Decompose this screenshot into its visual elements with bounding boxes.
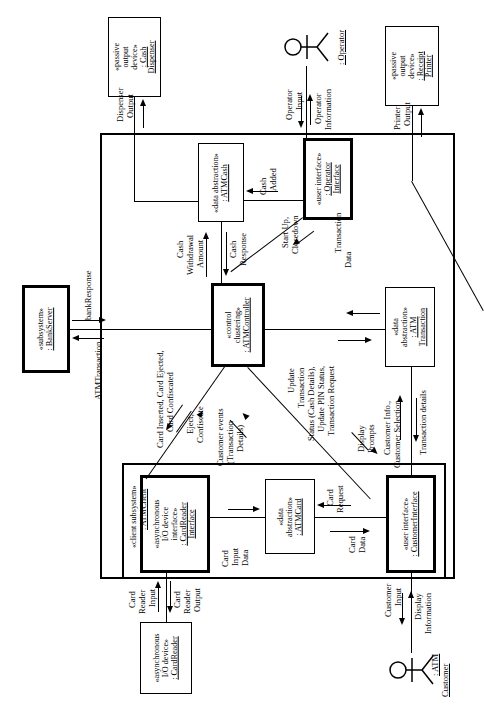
arrow-transaction-data-shaft	[352, 313, 380, 314]
label-display-information-1: Display	[414, 593, 423, 620]
object-atm-card: «data abstraction» : ATMCard	[265, 479, 315, 554]
arrow-card-reader-output-shaft	[170, 581, 171, 607]
arrow-card-reader-input-head	[155, 581, 161, 588]
label-eject-confiscate-2: Confiscate	[196, 406, 205, 443]
label-card-reader-input-2: Reader	[138, 590, 147, 614]
arrow-card-request-shaft	[323, 505, 351, 506]
atm-card-name: : ATMCard	[294, 496, 303, 536]
arrow-card-input-data-head	[253, 506, 260, 512]
line-cardreader-to-interface	[166, 573, 167, 622]
actor-atm-customer	[388, 650, 434, 690]
label-transaction-data-1: Transaction	[334, 213, 343, 253]
arrow-cash-response-shaft	[226, 232, 227, 270]
label-cash-withdrawal-1: Cash	[176, 241, 185, 258]
label-update-transaction-5: Transaction Request	[327, 366, 336, 436]
label-startup-2: Closedown	[291, 215, 300, 254]
arrow-operator-input-shaft	[301, 96, 302, 122]
arrow-card-data-head	[363, 528, 370, 534]
label-transaction-data-2: Data	[344, 252, 353, 268]
label-dispenser-output: Dispenser	[116, 88, 125, 122]
label-cash-withdrawal-2: Withdrawal	[186, 235, 195, 275]
label-card-reader-input-3: Input	[148, 589, 157, 607]
label-customer-events-1: Customer events	[216, 408, 225, 466]
label-card-request-1: Card	[326, 489, 335, 506]
label-operator-input-1: Operator	[285, 89, 294, 120]
label-card-input-data-3: Data	[241, 550, 250, 566]
line-atmcash-to-controller-v	[221, 222, 222, 283]
label-update-transaction-4: Update PIN Status,	[317, 366, 326, 432]
line-cardreaderinterface-to-atmcard	[210, 517, 265, 518]
cash-dispenser-stereotype-3: device»	[130, 41, 139, 74]
label-cash-response-1: Cash	[229, 241, 238, 258]
operator-interface-name-2: Interface	[332, 153, 341, 206]
arrow-cash-withdrawal-shaft	[206, 237, 207, 277]
label-card-data-2: Data	[358, 537, 367, 553]
arrow-display-information-head	[408, 591, 414, 598]
label-operator-information-2: Information	[324, 89, 333, 130]
label-card-inserted-1: Card Inserted, Card Ejected,	[156, 350, 165, 448]
label-printer-output-2: Output	[403, 102, 412, 126]
atm-controller-name: : ATMController	[242, 298, 251, 353]
line-printer-down	[412, 106, 413, 181]
label-card-reader-output-3: Output	[193, 588, 202, 612]
arrow-card-reader-output-head	[167, 606, 173, 613]
atm-transaction-name-2: Transaction	[419, 307, 428, 347]
label-card-request-2: Request	[336, 485, 345, 513]
arrow-customer-input-shaft	[402, 593, 403, 619]
arrow-customer-info-shaft	[400, 400, 401, 440]
label-bank-response: bankResponse	[84, 270, 93, 320]
line-atmcard-to-customerinterface	[315, 517, 386, 518]
arrow-atm-transaction-shaft	[78, 338, 104, 339]
object-atm-cash: «data abstraction» : ATMCash	[198, 143, 244, 222]
actor-atm-customer-label-1: : ATM	[431, 654, 440, 676]
arrow-cash-added-head	[246, 188, 253, 194]
label-customer-input-1: Customer	[384, 584, 393, 617]
object-operator-interface: «user interface» : Operator Interface	[303, 138, 353, 220]
arrow-operator-information-head	[307, 94, 313, 101]
arrow-cash-response-head	[223, 269, 229, 276]
label-cash-withdrawal-3: Amount	[196, 240, 205, 268]
label-printer-output-1: Printer	[393, 107, 402, 130]
object-receipt-printer: «passive output device» : Receipt Printe…	[385, 26, 439, 106]
arrow-card-input-data-shaft	[228, 509, 254, 510]
actor-operator	[283, 27, 329, 67]
label-eject-confiscate-1: Eject,	[186, 414, 195, 434]
label-cash-added-2: Added	[269, 168, 278, 191]
label-card-input-data-1: Card	[221, 550, 230, 567]
arrow-customer-info-head	[397, 395, 403, 402]
label-card-data-1: Card	[348, 536, 357, 553]
label-card-input-data-2: Input	[231, 548, 240, 566]
label-dispenser-output-2: Output	[126, 94, 135, 118]
card-reader-interface-name-2: Interface	[188, 499, 197, 548]
arrow-update-transaction-shaft	[338, 340, 366, 341]
label-startup-1: Start Up,	[281, 217, 290, 248]
arrow-printer-output-head	[418, 108, 424, 115]
label-card-reader-output-1: Card	[173, 591, 182, 608]
arrow-card-data-shaft	[330, 531, 364, 532]
label-cash-added-1: Cash	[259, 178, 268, 195]
label-card-reader-input-1: Card	[128, 591, 137, 608]
arrow-bank-response-shaft	[72, 320, 100, 321]
label-update-transaction-1: Update	[287, 368, 296, 393]
arrow-card-request-head	[317, 502, 324, 508]
label-card-reader-output-2: Reader	[183, 590, 192, 614]
object-customer-interface: «user interface» : CustomerInterface	[386, 475, 436, 573]
label-customer-info-1: Customer Info.,	[383, 401, 392, 455]
cash-dispenser-stereotype-2: output	[121, 41, 130, 74]
arrow-operator-information-shaft	[310, 99, 311, 125]
atm-client-name: : ATMClient	[140, 489, 149, 530]
line-bankserver-to-boundary	[70, 329, 104, 330]
actor-operator-label: : Operator	[337, 30, 346, 65]
arrow-card-reader-input-shaft	[158, 586, 159, 612]
atm-cash-name: : ATMCash	[221, 153, 230, 213]
line-atmtransaction-to-customerinterface	[411, 367, 412, 475]
label-atm-transaction-msg: ATMTransaction	[94, 342, 103, 400]
customer-interface-name: : CustomerInterface	[411, 491, 420, 556]
arrow-transaction-details-shaft	[416, 398, 417, 436]
label-customer-events-2: (Transaction	[226, 421, 235, 464]
object-card-reader: «asynchronous I/O device» : CardReader	[140, 622, 192, 694]
line-operator-to-interface	[306, 66, 307, 138]
object-atm-transaction: «data abstraction» : ATM Transaction	[385, 287, 435, 367]
arrow-atm-transaction-head	[72, 335, 79, 341]
